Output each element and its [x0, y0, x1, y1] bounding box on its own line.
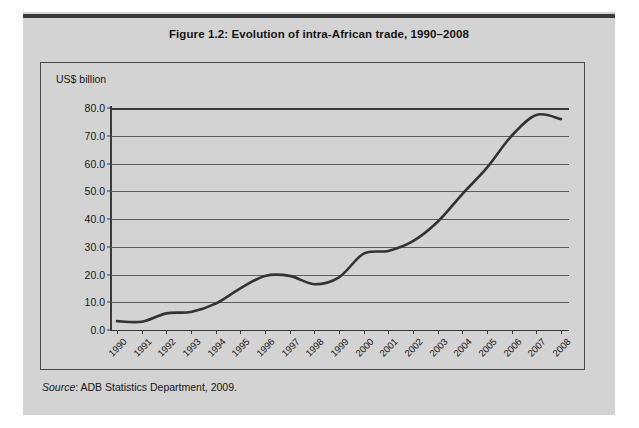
x-tick-mark-1999: [339, 330, 340, 334]
y-tick-label-0.0: 0.0: [90, 324, 105, 336]
x-tick-label-2004: 2004: [451, 336, 474, 359]
x-tick-mark-1992: [166, 330, 167, 334]
figure-page: Figure 1.2: Evolution of intra-African t…: [0, 0, 639, 428]
y-tick-label-10.0: 10.0: [85, 296, 105, 308]
x-tick-label-2003: 2003: [427, 336, 450, 359]
x-tick-mark-2005: [487, 330, 488, 334]
chart-container: US$ billion 0.010.020.030.040.050.060.07…: [40, 62, 585, 370]
x-tick-label-1992: 1992: [155, 336, 178, 359]
x-tick-label-2001: 2001: [377, 336, 400, 359]
x-tick-mark-2006: [512, 330, 513, 334]
y-tick-label-70.0: 70.0: [85, 130, 105, 142]
x-tick-mark-1990: [117, 330, 118, 334]
y-tick-label-80.0: 80.0: [85, 102, 105, 114]
x-tick-label-2000: 2000: [353, 336, 376, 359]
series-path-intra-african-trade: [117, 114, 561, 322]
x-tick-mark-1997: [290, 330, 291, 334]
y-tick-label-50.0: 50.0: [85, 185, 105, 197]
x-tick-mark-2000: [364, 330, 365, 334]
x-tick-label-1991: 1991: [131, 336, 154, 359]
x-tick-label-1994: 1994: [205, 336, 228, 359]
x-tick-label-1995: 1995: [229, 336, 252, 359]
x-tick-mark-1993: [191, 330, 192, 334]
series-line-chart: [111, 108, 569, 330]
y-tick-label-30.0: 30.0: [85, 241, 105, 253]
x-tick-mark-2003: [438, 330, 439, 334]
x-tick-mark-2002: [413, 330, 414, 334]
x-tick-label-1998: 1998: [303, 336, 326, 359]
top-rule-divider: [23, 14, 615, 18]
x-tick-label-2006: 2006: [501, 336, 524, 359]
y-tick-label-40.0: 40.0: [85, 213, 105, 225]
x-tick-mark-1996: [265, 330, 266, 334]
x-tick-label-2005: 2005: [476, 336, 499, 359]
page-title: Figure 1.2: Evolution of intra-African t…: [23, 28, 615, 40]
x-tick-mark-1991: [142, 330, 143, 334]
y-tick-label-60.0: 60.0: [85, 158, 105, 170]
plot-area: 0.010.020.030.040.050.060.070.080.0 1990…: [111, 108, 569, 330]
gridline-0.0: [111, 330, 569, 331]
source-label: Source: [42, 381, 75, 393]
x-tick-mark-2007: [536, 330, 537, 334]
x-tick-label-2007: 2007: [525, 336, 548, 359]
x-tick-mark-1998: [314, 330, 315, 334]
source-value: : ADB Statistics Department, 2009.: [75, 381, 237, 393]
y-tick-label-20.0: 20.0: [85, 269, 105, 281]
x-tick-mark-2008: [561, 330, 562, 334]
x-tick-label-1993: 1993: [180, 336, 203, 359]
source-note: Source: ADB Statistics Department, 2009.: [42, 381, 237, 393]
x-tick-label-2008: 2008: [550, 336, 573, 359]
x-tick-mark-2004: [462, 330, 463, 334]
y-axis-unit-label: US$ billion: [56, 73, 106, 85]
x-tick-label-2002: 2002: [402, 336, 425, 359]
x-tick-label-1999: 1999: [328, 336, 351, 359]
x-tick-mark-2001: [388, 330, 389, 334]
x-tick-mark-1995: [240, 330, 241, 334]
x-tick-label-1996: 1996: [254, 336, 277, 359]
x-tick-mark-1994: [216, 330, 217, 334]
x-tick-label-1997: 1997: [279, 336, 302, 359]
x-tick-label-1990: 1990: [106, 336, 129, 359]
